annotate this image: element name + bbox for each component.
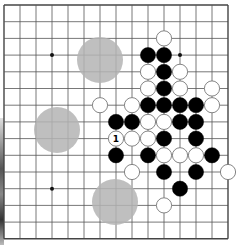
white-stone[interactable]: [156, 31, 171, 46]
black-stone[interactable]: [156, 48, 171, 63]
hint-circle: [34, 107, 80, 153]
black-stone[interactable]: [108, 148, 123, 163]
black-stone[interactable]: [140, 148, 155, 163]
black-stone[interactable]: [140, 48, 155, 63]
white-stone[interactable]: [220, 164, 235, 179]
star-point: [50, 187, 54, 191]
black-stone[interactable]: [156, 164, 171, 179]
white-stone[interactable]: [172, 64, 187, 79]
white-stone[interactable]: [92, 98, 107, 113]
white-stone[interactable]: [204, 98, 219, 113]
black-stone[interactable]: [172, 98, 187, 113]
black-stone[interactable]: [156, 98, 171, 113]
star-point: [178, 53, 182, 57]
white-stone[interactable]: [172, 81, 187, 96]
go-board[interactable]: 1: [0, 0, 240, 247]
white-stone[interactable]: 1: [108, 131, 123, 146]
white-stone[interactable]: [140, 81, 155, 96]
white-stone[interactable]: [140, 64, 155, 79]
white-stone[interactable]: [124, 164, 139, 179]
black-stone[interactable]: [156, 131, 171, 146]
white-stone[interactable]: [156, 114, 171, 129]
black-stone[interactable]: [172, 181, 187, 196]
black-stone[interactable]: [124, 114, 139, 129]
black-stone[interactable]: [188, 131, 203, 146]
black-stone[interactable]: [108, 114, 123, 129]
white-stone[interactable]: [156, 198, 171, 213]
black-stone[interactable]: [188, 98, 203, 113]
hint-circle: [77, 37, 123, 83]
hint-circle: [92, 179, 138, 225]
white-stone[interactable]: [204, 81, 219, 96]
hint-circles: [34, 37, 138, 225]
black-stone[interactable]: [156, 64, 171, 79]
black-stone[interactable]: [156, 81, 171, 96]
black-stone[interactable]: [204, 148, 219, 163]
white-stone[interactable]: [124, 98, 139, 113]
white-stone[interactable]: [124, 131, 139, 146]
white-stone[interactable]: [140, 131, 155, 146]
white-stone[interactable]: [140, 114, 155, 129]
black-stone[interactable]: [188, 114, 203, 129]
move-number-label: 1: [113, 134, 119, 144]
white-stone[interactable]: [188, 148, 203, 163]
black-stone[interactable]: [188, 164, 203, 179]
black-stone[interactable]: [140, 98, 155, 113]
black-stone[interactable]: [172, 114, 187, 129]
star-point: [50, 53, 54, 57]
white-stone[interactable]: [172, 148, 187, 163]
white-stone[interactable]: [156, 148, 171, 163]
